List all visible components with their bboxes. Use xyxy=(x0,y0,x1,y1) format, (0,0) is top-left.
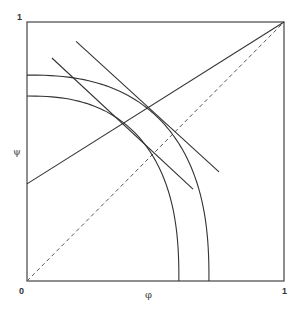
inner-curve xyxy=(27,96,179,281)
y-max-label: 1 xyxy=(17,12,22,22)
dashed-diagonal-line xyxy=(27,22,284,281)
tangent-line-outer xyxy=(76,41,219,172)
origin-label: 0 xyxy=(19,286,24,296)
x-max-label: 1 xyxy=(282,286,287,296)
y-axis-label: ψ xyxy=(13,146,21,157)
diagram-plot xyxy=(0,0,299,313)
x-axis-label: φ xyxy=(145,289,152,300)
tangent-line-inner xyxy=(52,58,193,189)
